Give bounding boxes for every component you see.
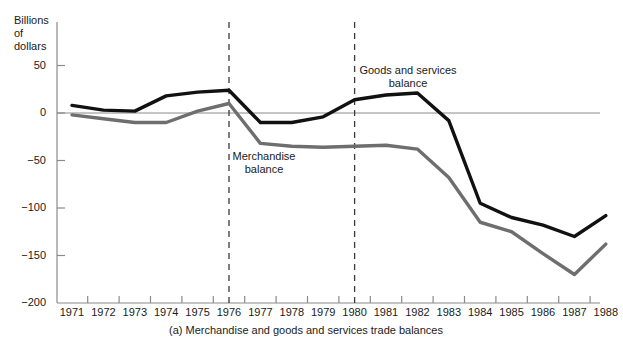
x-tick-label: 1978: [275, 306, 309, 318]
y-tick-label: −50: [12, 154, 46, 166]
series-label-goods-and-services: Goods and services balance: [338, 64, 478, 90]
y-axis-tick-marks: [57, 66, 65, 256]
x-tick-label: 1977: [243, 306, 277, 318]
series-label-merchandise: Merchandise balance: [205, 150, 323, 176]
x-tick-label: 1981: [369, 306, 403, 318]
x-tick-label: 1983: [432, 306, 466, 318]
y-tick-label: −200: [12, 296, 46, 308]
x-tick-label: 1973: [118, 306, 152, 318]
figure-caption: (a) Merchandise and goods and services t…: [0, 324, 612, 336]
x-tick-label: 1984: [463, 306, 497, 318]
x-tick-label: 1979: [306, 306, 340, 318]
series-line-merchandise: [72, 104, 606, 275]
x-tick-label: 1971: [55, 306, 89, 318]
x-tick-label: 1972: [86, 306, 120, 318]
y-tick-label: −100: [12, 201, 46, 213]
y-tick-label: 0: [12, 106, 46, 118]
x-tick-label: 1986: [526, 306, 560, 318]
series-line-goods-and-services: [72, 90, 606, 236]
x-tick-label: 1988: [589, 306, 623, 318]
x-tick-label: 1976: [212, 306, 246, 318]
data-series: [72, 90, 606, 274]
y-axis-title: Billions of dollars: [14, 14, 66, 53]
x-tick-label: 1974: [149, 306, 183, 318]
x-axis-tick-marks: [88, 296, 590, 303]
x-tick-label: 1975: [181, 306, 215, 318]
y-tick-label: −150: [12, 249, 46, 261]
y-tick-label: 50: [12, 59, 46, 71]
x-tick-label: 1982: [400, 306, 434, 318]
x-tick-label: 1980: [338, 306, 372, 318]
cropped-header-text: [0, 0, 612, 7]
x-tick-label: 1987: [557, 306, 591, 318]
x-tick-label: 1985: [495, 306, 529, 318]
